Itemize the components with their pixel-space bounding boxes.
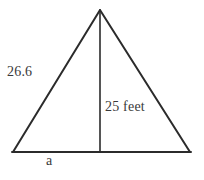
hypotenuse-label: 26.6 — [7, 65, 32, 79]
triangle-right-side — [100, 10, 190, 152]
base-label: a — [46, 154, 52, 168]
geometry-diagram: 26.6 25 feet a — [0, 0, 204, 180]
triangle-left-side — [13, 10, 100, 152]
height-label: 25 feet — [105, 100, 145, 114]
triangle-drawing — [0, 0, 204, 180]
